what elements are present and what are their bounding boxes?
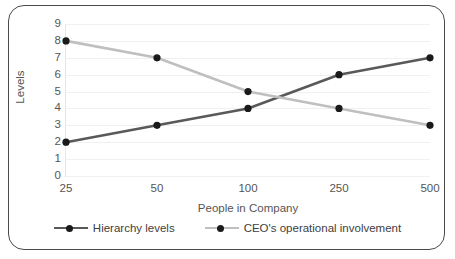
legend-swatch-icon: [54, 223, 88, 233]
y-axis-tick-label: 4: [39, 102, 61, 114]
data-point-marker: [153, 54, 160, 61]
y-axis-tick-label: 0: [39, 170, 61, 182]
x-axis-tick-label: 500: [403, 182, 455, 194]
x-axis-tick-labels: 2550100250500: [66, 182, 430, 196]
legend-item[interactable]: CEO's operational involvement: [205, 222, 402, 234]
x-axis-tick-label: 50: [130, 182, 184, 194]
series-line: [66, 41, 430, 125]
x-axis-tick-label: 250: [312, 182, 366, 194]
data-point-marker: [244, 105, 251, 112]
chart-figure: Levels 9876543210 2550100250500 People i…: [8, 5, 445, 250]
data-point-marker: [426, 54, 433, 61]
y-axis-tick-label: 1: [39, 153, 61, 165]
x-axis-title: People in Company: [66, 202, 430, 214]
y-axis-tick-label: 6: [39, 69, 61, 81]
y-axis-tick-label: 8: [39, 35, 61, 47]
legend-item[interactable]: Hierarchy levels: [54, 222, 175, 234]
data-point-marker: [426, 122, 433, 129]
chart-legend: Hierarchy levelsCEO's operational involv…: [9, 222, 446, 234]
data-point-marker: [62, 37, 69, 44]
series-line: [66, 58, 430, 142]
y-axis-tick-label: 2: [39, 136, 61, 148]
y-axis-tick-label: 5: [39, 86, 61, 98]
legend-dot-icon: [66, 225, 73, 232]
legend-swatch-icon: [205, 223, 239, 233]
data-point-marker: [335, 105, 342, 112]
legend-label: CEO's operational involvement: [244, 222, 402, 234]
data-point-marker: [62, 139, 69, 146]
y-axis-tick-labels: 9876543210: [37, 24, 61, 176]
x-axis-tick-label: 25: [39, 182, 93, 194]
y-axis-tick-label: 7: [39, 52, 61, 64]
legend-label: Hierarchy levels: [93, 222, 175, 234]
data-point-marker: [153, 122, 160, 129]
y-axis-tick-label: 3: [39, 119, 61, 131]
data-point-marker: [335, 71, 342, 78]
y-axis-tick-label: 9: [39, 18, 61, 30]
y-axis-title: Levels: [14, 57, 26, 117]
data-point-marker: [244, 88, 251, 95]
plot-area: [66, 24, 430, 176]
gridline: [66, 176, 430, 177]
series-plot: [66, 24, 430, 176]
legend-dot-icon: [217, 225, 224, 232]
x-axis-tick-label: 100: [221, 182, 275, 194]
